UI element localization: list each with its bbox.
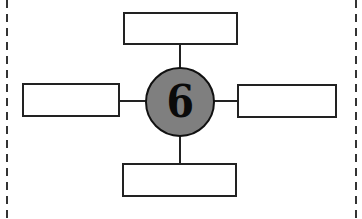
connector-bottom [179, 135, 181, 164]
connector-right [213, 100, 238, 102]
center-number: 6 [166, 80, 194, 124]
connector-left [119, 100, 147, 102]
box-bottom[interactable] [122, 163, 237, 197]
cut-line-right [355, 0, 357, 219]
connector-top [179, 44, 181, 69]
center-circle: 6 [145, 67, 215, 137]
box-top[interactable] [123, 12, 238, 45]
cut-line-left [6, 0, 8, 219]
box-left[interactable] [22, 83, 120, 117]
box-right[interactable] [237, 84, 337, 118]
